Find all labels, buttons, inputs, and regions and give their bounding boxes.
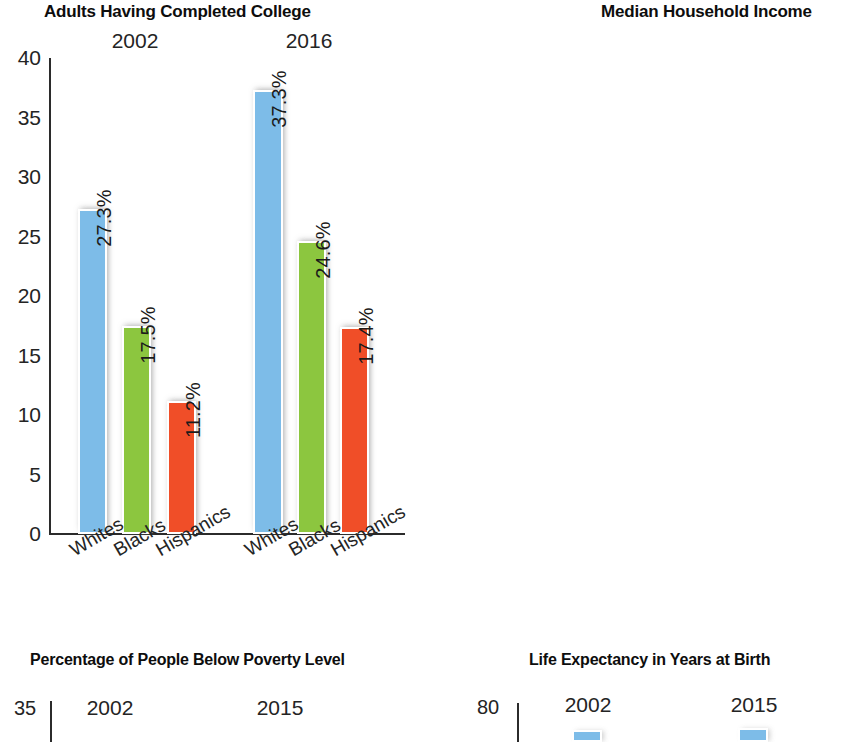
bar-label-college-2002-whites: 27.3% [93,189,116,247]
group-label-life-2002: 2002 [565,693,612,717]
bar-label-college-2002-hispanics: 11.2% [182,382,205,438]
y-tick-college-30: 30 [18,165,41,189]
y-axis-line-poverty [50,701,52,742]
bar-college-2016-blacks[interactable]: 24.6% [297,241,326,534]
y-tick-college-15: 15 [18,344,41,368]
charts-page: Adults Having Completed College 40 35 30… [0,0,858,742]
y-tick-college-25: 25 [18,225,41,249]
y-tick-college-5: 5 [29,463,41,487]
y-tick-college-20: 20 [18,284,41,308]
bar-life-2015-whites[interactable] [738,728,768,742]
y-axis-line-life [517,703,519,742]
bar-college-2002-whites[interactable]: 27.3% [78,209,107,534]
y-tick-college-40: 40 [18,46,41,70]
bar-college-2002-blacks[interactable]: 17.5% [122,326,151,534]
bar-label-college-2002-blacks: 17.5% [137,306,160,364]
chart-panel-life: Life Expectancy in Years at Birth 80 200… [429,620,858,742]
chart-title-poverty: Percentage of People Below Poverty Level [30,651,345,669]
chart-panel-income: Median Household Income $90,000 $85,000 … [429,0,858,620]
y-tick-poverty-35: 35 [14,697,36,720]
chart-panel-college: Adults Having Completed College 40 35 30… [0,0,429,620]
bar-label-college-2016-whites: 37.3% [268,70,291,128]
bar-college-2002-hispanics[interactable]: 11.2% [167,401,196,534]
plot-area-college: 40 35 30 25 20 15 10 5 0 2002 2016 27.3%… [50,58,406,534]
group-label-college-2002: 2002 [112,29,159,53]
y-tick-college-35: 35 [18,106,41,130]
y-tick-college-0: 0 [29,522,41,546]
bar-college-2016-whites[interactable]: 37.3% [253,90,283,534]
chart-title-life: Life Expectancy in Years at Birth [529,651,770,669]
y-tick-college-10: 10 [18,403,41,427]
chart-title-income: Median Household Income [601,2,812,22]
group-label-poverty-2002: 2002 [87,696,134,720]
bar-college-2016-hispanics[interactable]: 17.4% [340,327,369,534]
y-tick-life-80: 80 [477,696,499,719]
bar-label-college-2016-blacks: 24.6% [312,221,335,279]
chart-title-college: Adults Having Completed College [44,2,311,22]
bar-label-college-2016-hispanics: 17.4% [355,307,378,365]
y-axis-line-college [49,58,51,534]
group-label-college-2016: 2016 [286,29,333,53]
group-label-poverty-2015: 2015 [257,696,304,720]
group-label-life-2015: 2015 [731,693,778,717]
bar-life-2002-whites[interactable] [572,730,602,742]
chart-panel-poverty: Percentage of People Below Poverty Level… [0,620,429,742]
